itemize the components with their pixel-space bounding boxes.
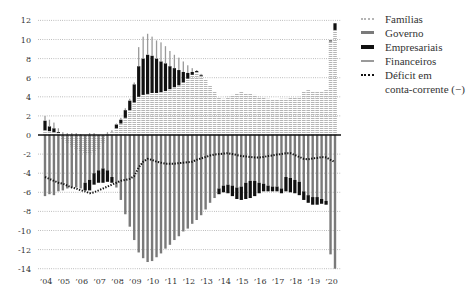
x-tick-label: ’08: [111, 277, 124, 286]
bar-governo: [142, 135, 144, 258]
bar-governo: [245, 135, 247, 183]
legend-label-familias: Famílias: [385, 12, 423, 26]
bar-familias: [128, 110, 132, 135]
bar-governo: [280, 135, 282, 188]
bar-financeiros: [58, 128, 59, 132]
bar-governo: [231, 135, 233, 186]
bar-familias: [235, 93, 239, 135]
bar-empresariais: [191, 72, 194, 75]
bar-empresariais: [266, 186, 269, 192]
bar-governo: [75, 135, 77, 188]
bar-financeiros: [156, 40, 157, 58]
bar-empresariais: [333, 23, 336, 30]
bar-empresariais: [298, 182, 301, 195]
bar-empresariais: [164, 63, 167, 91]
bar-financeiros: [134, 82, 135, 84]
bar-governo: [44, 135, 46, 196]
bar-empresariais: [316, 197, 319, 205]
y-tick-label: 10: [21, 36, 31, 45]
bar-empresariais: [302, 191, 305, 200]
bar-familias: [329, 41, 333, 135]
bar-governo: [182, 135, 184, 231]
x-tick-label: ’20: [325, 277, 338, 286]
bar-empresariais: [43, 121, 46, 131]
bar-empresariais: [110, 177, 113, 183]
x-tick-label: ’07: [93, 277, 106, 286]
bar-governo: [106, 135, 108, 170]
bar-financeiros: [196, 70, 197, 71]
bar-familias: [195, 72, 199, 135]
bar-familias: [240, 92, 244, 135]
bar-governo: [66, 135, 68, 188]
bar-financeiros: [44, 116, 45, 121]
bar-empresariais: [177, 70, 180, 85]
bar-governo: [267, 135, 269, 186]
bar-familias: [146, 94, 150, 135]
bar-empresariais: [115, 124, 118, 128]
y-tick-label: 2: [26, 112, 31, 121]
bar-empresariais: [52, 128, 55, 132]
bar-familias: [119, 124, 123, 135]
bar-financeiros: [138, 47, 139, 66]
bar-familias: [320, 91, 324, 135]
bar-empresariais: [155, 59, 158, 93]
bar-governo: [325, 135, 327, 201]
x-tick-label: ’16: [254, 277, 267, 286]
bar-familias: [177, 85, 181, 135]
bar-governo: [53, 135, 55, 195]
x-tick-label: ’06: [75, 277, 88, 286]
x-tick-label: ’04: [40, 277, 53, 286]
bar-familias: [289, 98, 293, 135]
legend-label-deficit-line2: conta-corrente (−): [385, 82, 465, 96]
bar-familias: [164, 91, 168, 135]
bar-familias: [231, 95, 235, 135]
bar-familias: [141, 95, 145, 135]
bar-empresariais: [128, 101, 131, 111]
bar-financeiros: [183, 61, 184, 72]
bar-familias: [182, 82, 186, 135]
bar-familias: [271, 100, 275, 135]
bar-governo: [311, 135, 313, 197]
bar-financeiros: [174, 55, 175, 68]
bar-empresariais: [235, 188, 238, 199]
bar-empresariais: [253, 181, 256, 196]
bar-governo: [124, 135, 126, 214]
x-tick-label: ’09: [129, 277, 142, 286]
bar-empresariais: [222, 186, 225, 193]
x-tick-label: ’10: [147, 277, 160, 286]
bar-familias: [284, 99, 288, 135]
bar-financeiros: [165, 46, 166, 63]
governo-swatch-icon: [360, 26, 374, 40]
bar-governo: [133, 135, 135, 240]
bar-governo: [316, 135, 318, 197]
legend-item-familias: Famílias: [360, 12, 465, 26]
y-tick-label: -12: [18, 246, 31, 255]
bar-empresariais: [159, 61, 162, 92]
bar-governo: [169, 135, 171, 245]
bar-familias: [244, 93, 248, 135]
bar-familias: [253, 95, 257, 135]
bar-governo: [102, 135, 104, 168]
bar-empresariais: [92, 173, 95, 184]
bar-empresariais: [88, 180, 91, 191]
bar-governo: [289, 135, 291, 178]
bar-financeiros: [107, 132, 108, 134]
bar-governo: [195, 135, 197, 220]
bar-familias: [173, 87, 177, 135]
legend-item-governo: Governo: [360, 26, 465, 40]
bar-financeiros: [143, 37, 144, 59]
bar-familias: [115, 128, 119, 135]
legend-label-governo: Governo: [385, 26, 424, 40]
x-tick-label: ’13: [200, 277, 213, 286]
bar-governo: [227, 135, 229, 185]
bar-governo: [191, 135, 193, 224]
bar-empresariais: [217, 188, 220, 194]
bar-familias: [311, 91, 315, 135]
bar-governo: [97, 135, 99, 170]
bar-empresariais: [84, 183, 87, 191]
y-tick-label: 12: [21, 16, 31, 25]
bar-governo: [294, 135, 296, 180]
bar-financeiros: [129, 99, 130, 101]
bar-empresariais: [293, 180, 296, 193]
bar-governo: [320, 135, 322, 199]
